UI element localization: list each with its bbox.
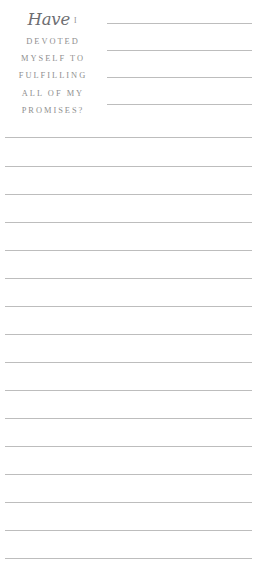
journal-page: HaveI DEVOTED MYSELF TO FULFILLING ALL O… — [0, 0, 264, 565]
writing-rule-full[interactable] — [5, 530, 252, 531]
prompt-numeral: I — [74, 16, 77, 25]
writing-rule-full[interactable] — [5, 418, 252, 419]
prompt-line-4: FULFILLING — [0, 67, 104, 84]
prompt-line-6: PROMISES? — [0, 102, 104, 119]
prompt-script-word: Have — [27, 10, 70, 29]
writing-rule-full[interactable] — [5, 166, 252, 167]
prompt-question: HaveI DEVOTED MYSELF TO FULFILLING ALL O… — [0, 10, 104, 119]
prompt-header: HaveI DEVOTED MYSELF TO FULFILLING ALL O… — [0, 0, 264, 128]
writing-rule-full[interactable] — [5, 502, 252, 503]
prompt-line-2: DEVOTED — [0, 33, 104, 50]
prompt-line-5: ALL OF MY — [0, 85, 104, 102]
writing-rule-full[interactable] — [5, 446, 252, 447]
writing-rule-full[interactable] — [5, 222, 252, 223]
writing-rule-full[interactable] — [5, 137, 252, 138]
prompt-line-3: MYSELF TO — [0, 50, 104, 67]
writing-rule-full[interactable] — [5, 194, 252, 195]
writing-rule-full[interactable] — [5, 334, 252, 335]
writing-rule-full[interactable] — [5, 250, 252, 251]
writing-rule-short[interactable] — [107, 104, 252, 105]
writing-rule-full[interactable] — [5, 278, 252, 279]
writing-rule-short[interactable] — [107, 23, 252, 24]
writing-rule-full[interactable] — [5, 558, 252, 559]
writing-rule-short[interactable] — [107, 50, 252, 51]
writing-rule-full[interactable] — [5, 474, 252, 475]
prompt-line-1: HaveI — [0, 10, 104, 33]
writing-rule-full[interactable] — [5, 306, 252, 307]
writing-rule-full[interactable] — [5, 362, 252, 363]
writing-rule-full[interactable] — [5, 390, 252, 391]
writing-rule-short[interactable] — [107, 77, 252, 78]
